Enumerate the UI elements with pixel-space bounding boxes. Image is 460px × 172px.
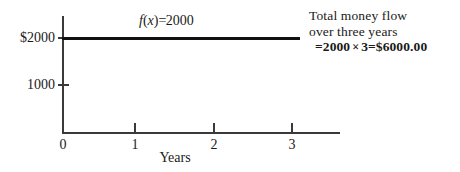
note-total-amount: $6000.00: [376, 39, 427, 54]
y-axis-tick-label-1000: 1000: [0, 77, 55, 93]
y-axis-line: [62, 16, 64, 134]
note-line-2: over three years: [309, 24, 427, 40]
note-line-1: Total money flow: [309, 8, 427, 24]
x-axis-tick-1: [134, 123, 136, 133]
x-axis-tick-label-3: 3: [277, 136, 307, 154]
note-equals-1: =: [315, 39, 323, 54]
function-label: f(x)=2000: [139, 12, 194, 30]
x-axis-tick-3: [291, 123, 293, 133]
constant-function-line: [62, 37, 300, 40]
note-equals-2: =: [368, 39, 376, 54]
y-axis-tick-label-2000: $2000: [0, 30, 55, 46]
note-line-3: =2000×3=$6000.00: [309, 39, 427, 56]
function-label-value: 2000: [166, 13, 194, 28]
x-axis-title: Years: [115, 149, 235, 167]
function-label-equals: =: [158, 13, 165, 28]
y-axis-tick-1000: [58, 84, 69, 86]
total-money-flow-note: Total money flow over three years =2000×…: [309, 8, 427, 56]
note-years-count: 3: [361, 39, 368, 54]
x-axis-tick-2: [213, 123, 215, 133]
x-axis-line: [62, 132, 340, 134]
multiplication-icon: ×: [350, 40, 361, 54]
x-axis-tick-label-0: 0: [48, 136, 78, 154]
money-flow-figure: $2000 1000 0 1 2 3 f(x)=2000 Years Total…: [0, 0, 460, 172]
note-base-amount: 2000: [323, 39, 350, 54]
